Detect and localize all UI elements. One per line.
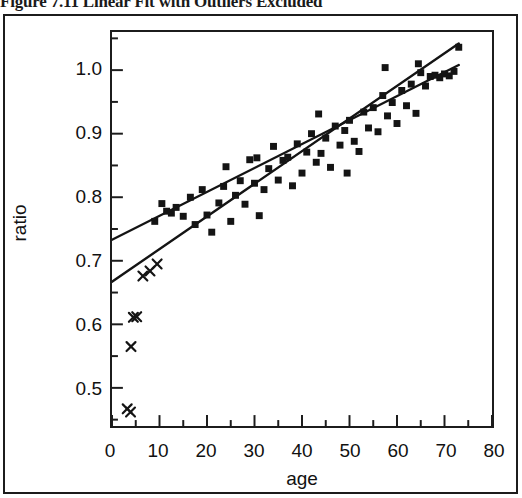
plot-area	[110, 30, 494, 428]
outlier-point-x	[127, 342, 136, 351]
data-point-square	[158, 200, 165, 207]
x-tick-label: 0	[105, 440, 116, 462]
data-point-square	[398, 87, 405, 94]
data-point-square	[360, 109, 367, 116]
data-point-square	[370, 104, 377, 111]
data-point-square	[327, 164, 334, 171]
data-point-square	[253, 154, 260, 161]
data-point-square	[284, 154, 291, 161]
x-tick-label: 40	[291, 440, 312, 462]
y-tick-label: 0.9	[76, 122, 102, 144]
data-point-square	[318, 150, 325, 157]
data-point-square	[382, 64, 389, 71]
data-point-square	[356, 148, 363, 155]
x-tick-label: 70	[435, 440, 456, 462]
data-point-square	[394, 120, 401, 127]
data-point-square	[422, 83, 429, 90]
data-point-square	[351, 138, 358, 145]
y-axis-tick-labels: 0.50.60.70.80.91.0	[40, 0, 102, 498]
data-point-square	[237, 177, 244, 184]
data-point-square	[332, 123, 339, 130]
data-point-square	[289, 182, 296, 189]
data-point-square	[344, 170, 351, 177]
y-tick-label: 1.0	[76, 58, 102, 80]
data-point-square	[415, 60, 422, 67]
data-point-square	[379, 92, 386, 99]
data-point-square	[455, 44, 462, 51]
data-point-square	[365, 124, 372, 131]
data-point-square	[313, 159, 320, 166]
data-point-square	[192, 221, 199, 228]
x-tick-label: 60	[387, 440, 408, 462]
data-point-square	[261, 186, 268, 193]
y-tick-label: 0.5	[76, 378, 102, 400]
data-point-square	[199, 186, 206, 193]
data-point-square	[403, 102, 410, 109]
data-point-square	[173, 204, 180, 211]
data-point-square	[337, 142, 344, 149]
y-axis-title: ratio	[9, 187, 31, 259]
data-point-square	[315, 111, 322, 118]
x-tick-label: 30	[243, 440, 264, 462]
data-point-square	[256, 212, 263, 219]
y-tick-label: 0.8	[76, 186, 102, 208]
x-tick-label: 20	[195, 440, 216, 462]
data-point-square	[227, 218, 234, 225]
data-point-square	[180, 213, 187, 220]
data-point-square	[223, 163, 230, 170]
data-point-square	[275, 177, 282, 184]
data-point-square	[232, 192, 239, 199]
data-point-square	[308, 130, 315, 137]
data-point-square	[215, 199, 222, 206]
data-point-square	[246, 156, 253, 163]
data-point-square	[242, 201, 249, 208]
data-point-square	[384, 112, 391, 119]
data-point-square	[204, 212, 211, 219]
x-tick-label: 50	[339, 440, 360, 462]
outlier-point-x	[126, 408, 135, 417]
data-point-square	[294, 140, 301, 147]
x-tick-label: 80	[483, 440, 504, 462]
data-point-square	[265, 165, 272, 172]
x-axis-tick-labels: 01020304050607080	[0, 440, 522, 466]
data-point-square	[375, 128, 382, 135]
data-point-square	[270, 143, 277, 150]
data-point-square	[187, 194, 194, 201]
data-point-square	[417, 69, 424, 76]
data-point-square	[413, 110, 420, 117]
scatter-plot-canvas	[112, 32, 492, 426]
y-tick-label: 0.7	[76, 250, 102, 272]
data-point-square	[346, 117, 353, 124]
data-point-square	[408, 81, 415, 88]
data-point-square	[389, 99, 396, 106]
data-point-square	[220, 183, 227, 190]
data-point-square	[303, 149, 310, 156]
y-tick-label: 0.6	[76, 314, 102, 336]
data-point-square	[322, 135, 329, 142]
x-axis-title: age	[110, 468, 494, 490]
data-point-square	[341, 127, 348, 134]
outlier-point-x	[153, 259, 162, 268]
data-point-square	[151, 218, 158, 225]
x-tick-label: 10	[147, 440, 168, 462]
data-point-square	[208, 229, 215, 236]
data-point-square	[451, 68, 458, 75]
data-point-square	[299, 170, 306, 177]
data-point-square	[251, 180, 258, 187]
